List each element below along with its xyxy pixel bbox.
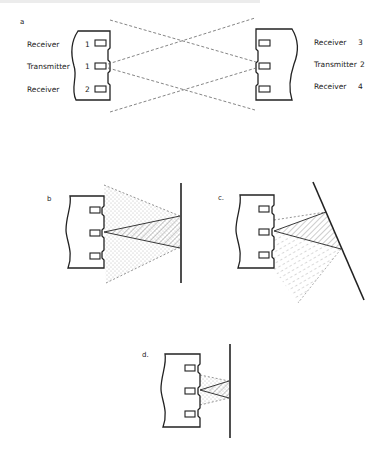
left-receiver-1-number: 1	[85, 40, 90, 49]
panel-d-sensor	[161, 354, 200, 427]
panel-d-label: d.	[142, 351, 149, 359]
left-receiver-1-label: Receiver	[27, 40, 60, 49]
left-receiver-2-label: Receiver	[27, 85, 60, 94]
right-transmitter-number: 2	[360, 60, 365, 69]
right-receiver-3-number: 3	[358, 38, 363, 47]
beam-lines	[108, 18, 256, 112]
diagram-canvas: a Receiver 1 Transmitter 1 Receiver 2 Re…	[0, 0, 386, 457]
left-transmitter-label: Transmitter	[26, 62, 71, 71]
panel-c-label: c.	[218, 194, 224, 202]
panel-a-label: a	[20, 18, 24, 26]
left-receiver-2-number: 2	[85, 85, 90, 94]
scan-fragment	[0, 0, 260, 3]
right-sensor	[256, 29, 298, 100]
right-receiver-4-number: 4	[358, 82, 363, 91]
right-transmitter-label: Transmitter	[313, 60, 358, 69]
panel-b-sensor	[66, 196, 104, 268]
right-receiver-4-label: Receiver	[314, 82, 347, 91]
panel-c: c.	[218, 182, 364, 303]
panel-b: b	[47, 183, 181, 283]
right-receiver-3-label: Receiver	[314, 38, 347, 47]
panel-b-label: b	[47, 195, 52, 203]
left-transmitter-number: 1	[85, 62, 90, 71]
panel-d: d.	[142, 344, 230, 438]
left-sensor	[72, 31, 110, 100]
panel-a: a Receiver 1 Transmitter 1 Receiver 2 Re…	[20, 18, 365, 112]
panel-c-sensor	[236, 195, 274, 268]
